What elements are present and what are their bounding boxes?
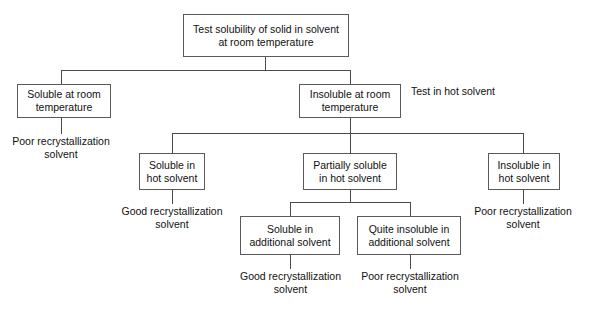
outcome-poor-rt-line2: solvent	[44, 148, 77, 160]
outcome-poor-additional-line2: solvent	[393, 283, 426, 295]
node-insoluble-rt-text: Insoluble at room temperature	[310, 88, 391, 114]
outcome-poor-from-soluble-at-room-temperature: Poor recrystallization solvent	[1, 135, 121, 161]
node-root-text: Test solubility of solid in solvent at r…	[193, 23, 339, 49]
node-partially-soluble-hot-text: Partially soluble in hot solvent	[313, 159, 387, 185]
node-quite-insoluble-additional-text: Quite insoluble in additional solvent	[368, 223, 449, 249]
node-soluble-additional-line1: Soluble in	[249, 223, 330, 236]
connector-soluble-additional-to-outcome	[290, 255, 291, 269]
connector-soluble-rt-to-outcome	[61, 118, 62, 134]
node-root-line2: at room temperature	[193, 36, 339, 49]
annotation-test-hot-line1: Test in	[411, 85, 441, 97]
outcome-poor-insoluble-hot-line1: Poor recrystallization	[474, 205, 571, 217]
node-insoluble-hot-line1: Insoluble in	[497, 159, 550, 172]
flowchart-canvas: Test solubility of solid in solvent at r…	[0, 0, 592, 310]
node-insoluble-hot-text: Insoluble in hot solvent	[497, 159, 550, 185]
node-soluble-rt-line2: temperature	[27, 101, 101, 114]
connector-to-soluble-additional	[290, 202, 291, 216]
outcome-poor-insoluble-hot-line2: solvent	[506, 218, 539, 230]
node-soluble-at-room-temperature[interactable]: Soluble at room temperature	[17, 84, 111, 118]
node-quite-insoluble-additional-line1: Quite insoluble in	[368, 223, 449, 236]
node-soluble-hot-line2: hot solvent	[147, 172, 198, 185]
connector-to-quite-insoluble-additional	[410, 202, 411, 216]
node-soluble-additional-text: Soluble in additional solvent	[249, 223, 330, 249]
connector-split-2-bar	[172, 133, 524, 134]
outcome-good-additional-line1: Good recrystallization	[240, 270, 341, 282]
connector-to-partially-soluble-hot	[350, 133, 351, 153]
node-root[interactable]: Test solubility of solid in solvent at r…	[183, 14, 349, 57]
outcome-good-additional-line2: solvent	[274, 283, 307, 295]
outcome-poor-rt-line1: Poor recrystallization	[12, 135, 109, 147]
connector-split-3-bar	[290, 202, 410, 203]
node-soluble-rt-text: Soluble at room temperature	[27, 88, 101, 114]
outcome-poor-from-insoluble-in-hot-solvent: Poor recrystallization solvent	[462, 205, 584, 231]
connector-insoluble-hot-to-outcome	[523, 190, 524, 204]
node-quite-insoluble-additional-line2: additional solvent	[368, 236, 449, 249]
node-quite-insoluble-in-additional-solvent[interactable]: Quite insoluble in additional solvent	[357, 216, 461, 255]
annotation-test-in-hot-solvent: Test in hot solvent	[406, 85, 500, 98]
node-insoluble-hot-line2: hot solvent	[497, 172, 550, 185]
connector-to-soluble-rt	[61, 70, 62, 84]
outcome-good-from-soluble-in-additional-solvent: Good recrystallization solvent	[229, 270, 352, 296]
node-insoluble-rt-line2: temperature	[310, 101, 391, 114]
node-soluble-rt-line1: Soluble at room	[27, 88, 101, 101]
node-insoluble-rt-line1: Insoluble at room	[310, 88, 391, 101]
node-insoluble-at-room-temperature[interactable]: Insoluble at room temperature	[299, 84, 401, 118]
outcome-good-hot-line1: Good recrystallization	[122, 205, 223, 217]
annotation-test-hot-line2: hot solvent	[444, 85, 495, 97]
node-soluble-in-hot-solvent[interactable]: Soluble in hot solvent	[139, 153, 205, 190]
node-partially-soluble-hot-line1: Partially soluble	[313, 159, 387, 172]
node-insoluble-in-hot-solvent[interactable]: Insoluble in hot solvent	[488, 153, 560, 190]
connector-quite-insoluble-additional-to-outcome	[410, 255, 411, 269]
outcome-poor-from-quite-insoluble-in-additional-solvent: Poor recrystallization solvent	[350, 270, 470, 296]
connector-root-stem	[265, 57, 266, 70]
node-soluble-in-additional-solvent[interactable]: Soluble in additional solvent	[240, 216, 340, 255]
connector-split-1-bar	[61, 70, 351, 71]
connector-to-soluble-hot	[172, 133, 173, 153]
outcome-good-from-soluble-in-hot-solvent: Good recrystallization solvent	[110, 205, 234, 231]
connector-partially-soluble-stem	[350, 190, 351, 202]
connector-soluble-hot-to-outcome	[172, 190, 173, 204]
node-partially-soluble-in-hot-solvent[interactable]: Partially soluble in hot solvent	[303, 153, 397, 190]
connector-to-insoluble-hot	[523, 133, 524, 153]
connector-insoluble-rt-stem	[350, 118, 351, 133]
outcome-good-hot-line2: solvent	[155, 218, 188, 230]
node-soluble-hot-line1: Soluble in	[147, 159, 198, 172]
node-root-line1: Test solubility of solid in solvent	[193, 23, 339, 36]
node-partially-soluble-hot-line2: in hot solvent	[313, 172, 387, 185]
outcome-poor-additional-line1: Poor recrystallization	[361, 270, 458, 282]
connector-to-insoluble-rt	[350, 70, 351, 84]
node-soluble-hot-text: Soluble in hot solvent	[147, 159, 198, 185]
node-soluble-additional-line2: additional solvent	[249, 236, 330, 249]
